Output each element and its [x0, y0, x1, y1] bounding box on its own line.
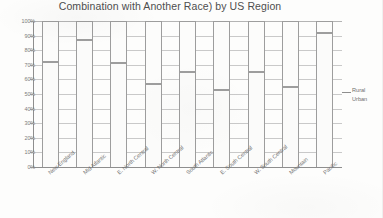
y-tick-mark-80: [30, 50, 33, 51]
bar-segment-rural: [42, 21, 59, 62]
bar-segment-urban: [213, 90, 230, 167]
y-tick-mark-90: [30, 36, 33, 37]
y-tick-mark-30: [30, 123, 33, 124]
bar-segment-urban: [76, 40, 93, 167]
bar-group: [316, 21, 333, 167]
chart-title: Combination with Another Race) by US Reg…: [0, 0, 340, 12]
bar-segment-rural: [110, 21, 127, 63]
y-tick-mark-20: [30, 138, 33, 139]
bar-segment-rural: [76, 21, 93, 40]
bar-segment-urban: [316, 33, 333, 167]
legend-label-rural: Rural: [352, 86, 365, 95]
bar-segment-rural: [213, 21, 230, 90]
plot-area: [33, 21, 342, 167]
legend-item-rural: Rural: [352, 86, 367, 95]
legend-item-urban: Urban: [352, 95, 367, 104]
y-tick-mark-10: [30, 152, 33, 153]
bar-group: [42, 21, 59, 167]
legend-label-urban: Urban: [352, 95, 367, 104]
bar-segment-rural: [248, 21, 265, 72]
y-tick-mark-50: [30, 94, 33, 95]
chart-legend: Rural Urban: [352, 86, 367, 104]
bar-group: [110, 21, 127, 167]
bar-segment-urban: [110, 63, 127, 167]
legend-divider: [342, 92, 351, 93]
y-tick-mark-100: [30, 21, 33, 22]
y-tick-mark-0: [30, 167, 33, 168]
bar-segment-urban: [248, 72, 265, 167]
bar-segment-urban: [282, 87, 299, 167]
bar-segment-rural: [179, 21, 196, 72]
y-tick-mark-60: [30, 79, 33, 80]
y-tick-mark-70: [30, 65, 33, 66]
y-tick-mark-40: [30, 109, 33, 110]
bar-segment-urban: [42, 62, 59, 167]
bar-segment-rural: [282, 21, 299, 87]
bar-segment-urban: [145, 84, 162, 167]
bar-segment-rural: [145, 21, 162, 84]
bar-segment-rural: [316, 21, 333, 33]
bar-group: [145, 21, 162, 167]
bar-group: [76, 21, 93, 167]
bar-segment-urban: [179, 72, 196, 167]
bar-group: [213, 21, 230, 167]
